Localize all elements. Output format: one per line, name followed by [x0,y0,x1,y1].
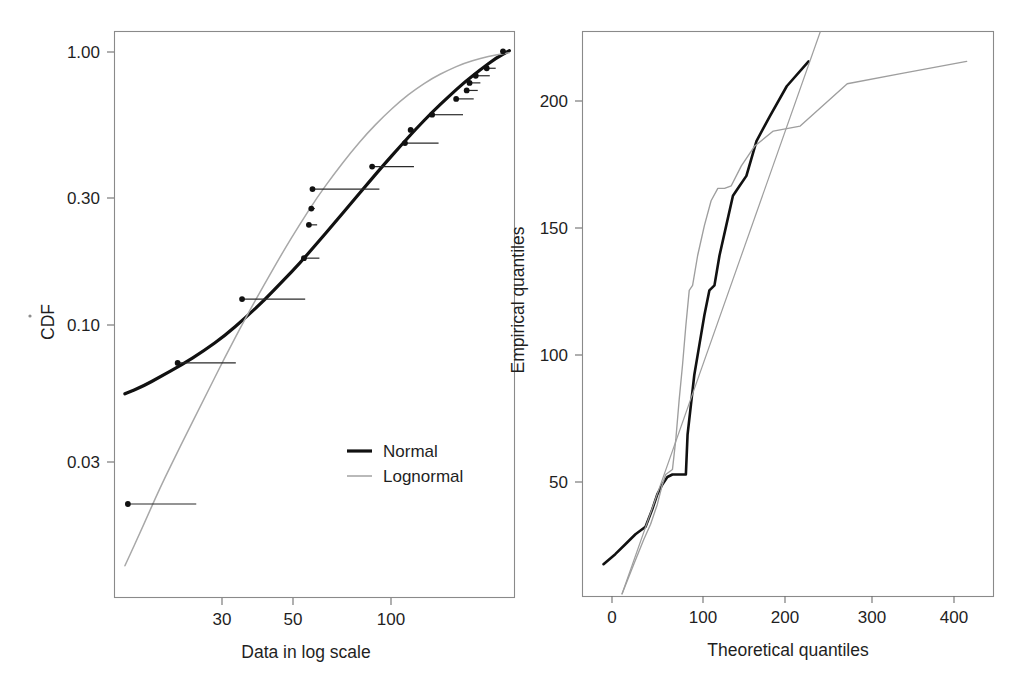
ecdf-point [239,296,245,302]
ecdf-point [429,112,435,118]
ecdf-point [408,127,414,133]
qq-xtick-label-4: 300 [858,608,886,627]
qq-xtick-label-5: 400 [940,608,968,627]
cdf-ytick-label-2: 0.30 [67,189,100,208]
qq-x-ticks: 0 100 200 300 400 [607,596,968,627]
ecdf-point [310,186,316,192]
qq-xtick-label-3: 200 [771,608,799,627]
cdf-ytick-label-4: 0.03 [67,453,100,472]
ecdf-point [453,96,459,102]
cdf-curve-normal [125,51,509,394]
cdf-plot-frame [115,32,515,598]
cdf-ytick-label-1: 1.00 [67,43,100,62]
cdf-ytick-label-3: 0.10 [67,316,100,335]
qq-line-normal [604,61,809,564]
legend-label-lognormal: Lognormal [383,467,463,486]
ecdf-point [484,65,490,71]
qq-y-ticks: 200 150 100 50 [540,92,582,492]
cdf-xtick-label-2: 50 [284,610,303,629]
qq-xtick-label-2: 100 [689,608,717,627]
cdf-curve-lognormal [125,53,509,566]
cdf-panel: 1.00 0.30 0.10 0.03 30 50 100 Data in lo… [28,32,514,663]
two-panel-figure: 1.00 0.30 0.10 0.03 30 50 100 Data in lo… [0,0,1019,674]
cdf-data-layer [125,48,509,565]
ecdf-point [308,206,314,212]
ecdf-point [125,501,131,507]
cdf-y-axis-title: CDF [38,304,58,340]
ecdf-point [500,48,506,54]
qq-xtick-label-1: 0 [607,608,616,627]
ecdf-point [402,140,408,146]
qq-y-axis-title: Empirical quantiles [508,226,528,373]
qq-ytick-label-3: 100 [540,346,568,365]
cdf-x-axis-title: Data in log scale [241,642,370,662]
qq-ytick-label-1: 200 [540,92,568,111]
ecdf-point [464,88,470,94]
qq-x-axis-title: Theoretical quantiles [707,640,869,660]
qq-line-reference-line [622,32,820,595]
cdf-xtick-label-3: 100 [377,610,405,629]
ecdf-point [175,360,181,366]
ecdf-point [473,73,479,79]
cdf-x-ticks: 30 50 100 [213,598,406,629]
cdf-xtick-label-1: 30 [213,610,232,629]
qq-ytick-label-4: 50 [549,473,568,492]
qq-data-layer [604,32,967,595]
qq-plot-frame [583,32,994,597]
qq-panel: 200 150 100 50 0 100 200 300 400 Theoret… [508,32,994,661]
qq-line-lognormal [622,61,967,594]
figure-canvas: 1.00 0.30 0.10 0.03 30 50 100 Data in lo… [0,0,1019,674]
legend-label-normal: Normal [383,442,438,461]
ecdf-point [369,164,375,170]
qq-ytick-label-2: 150 [540,219,568,238]
ecdf-point [467,80,473,86]
cdf-legend: Normal Lognormal [347,442,463,486]
ecdf-point [306,222,312,228]
ecdf-point [301,255,307,261]
cdf-y-ticks: 1.00 0.30 0.10 0.03 [67,43,114,472]
scan-speck [28,314,31,317]
